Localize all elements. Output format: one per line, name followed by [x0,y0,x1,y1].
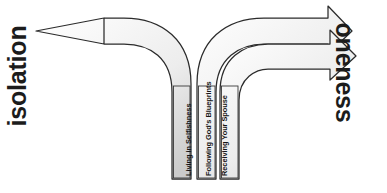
path-label-following-gods-blueprints: Following God's Blueprints [204,82,213,176]
path-label-receiving-your-spouse: Receiving Your Spouse [220,95,229,176]
path-label-living-in-selfishness: Living in Selfishness [184,104,193,176]
diagram-canvas: isolation oneness Living in Selfishness … [0,0,387,193]
path-shape-living-in-selfishness [36,18,191,179]
axis-label-isolation: isolation [3,27,32,127]
axis-label-oneness: oneness [330,23,359,123]
